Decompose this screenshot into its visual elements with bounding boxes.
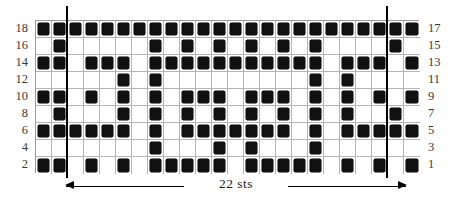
stitch-cell[interactable] <box>68 89 84 106</box>
stitch-cell[interactable] <box>308 140 324 157</box>
stitch-cell[interactable] <box>84 140 100 157</box>
stitch-cell[interactable] <box>116 89 132 106</box>
stitch-cell[interactable] <box>404 21 420 38</box>
stitch-cell[interactable] <box>132 21 148 38</box>
stitch-cell[interactable] <box>84 38 100 55</box>
stitch-cell[interactable] <box>340 89 356 106</box>
stitch-cell[interactable] <box>36 123 52 140</box>
stitch-cell[interactable] <box>388 89 404 106</box>
stitch-cell[interactable] <box>180 123 196 140</box>
stitch-cell[interactable] <box>308 21 324 38</box>
stitch-cell[interactable] <box>292 38 308 55</box>
stitch-cell[interactable] <box>388 140 404 157</box>
stitch-cell[interactable] <box>36 55 52 72</box>
stitch-cell[interactable] <box>404 106 420 123</box>
stitch-cell[interactable] <box>292 89 308 106</box>
stitch-cell[interactable] <box>36 72 52 89</box>
stitch-cell[interactable] <box>388 38 404 55</box>
stitch-cell[interactable] <box>324 72 340 89</box>
stitch-cell[interactable] <box>196 106 212 123</box>
stitch-cell[interactable] <box>260 157 276 174</box>
stitch-cell[interactable] <box>324 21 340 38</box>
stitch-cell[interactable] <box>324 89 340 106</box>
stitch-cell[interactable] <box>292 55 308 72</box>
stitch-cell[interactable] <box>132 123 148 140</box>
stitch-cell[interactable] <box>100 55 116 72</box>
stitch-cell[interactable] <box>276 72 292 89</box>
stitch-cell[interactable] <box>404 89 420 106</box>
stitch-cell[interactable] <box>244 21 260 38</box>
stitch-cell[interactable] <box>308 38 324 55</box>
stitch-cell[interactable] <box>68 123 84 140</box>
stitch-cell[interactable] <box>100 106 116 123</box>
stitch-cell[interactable] <box>100 140 116 157</box>
stitch-cell[interactable] <box>132 38 148 55</box>
stitch-cell[interactable] <box>324 38 340 55</box>
stitch-cell[interactable] <box>388 72 404 89</box>
stitch-cell[interactable] <box>100 72 116 89</box>
stitch-cell[interactable] <box>308 123 324 140</box>
stitch-cell[interactable] <box>148 55 164 72</box>
stitch-cell[interactable] <box>212 72 228 89</box>
stitch-cell[interactable] <box>292 123 308 140</box>
stitch-cell[interactable] <box>68 38 84 55</box>
stitch-cell[interactable] <box>196 157 212 174</box>
stitch-cell[interactable] <box>132 106 148 123</box>
stitch-cell[interactable] <box>100 123 116 140</box>
stitch-cell[interactable] <box>100 89 116 106</box>
stitch-cell[interactable] <box>260 21 276 38</box>
stitch-cell[interactable] <box>164 55 180 72</box>
stitch-cell[interactable] <box>292 157 308 174</box>
stitch-cell[interactable] <box>132 89 148 106</box>
stitch-cell[interactable] <box>324 123 340 140</box>
stitch-cell[interactable] <box>148 38 164 55</box>
stitch-cell[interactable] <box>212 21 228 38</box>
stitch-cell[interactable] <box>276 89 292 106</box>
stitch-cell[interactable] <box>404 55 420 72</box>
stitch-cell[interactable] <box>68 55 84 72</box>
stitch-cell[interactable] <box>68 106 84 123</box>
stitch-cell[interactable] <box>228 72 244 89</box>
stitch-cell[interactable] <box>340 38 356 55</box>
stitch-cell[interactable] <box>356 38 372 55</box>
stitch-cell[interactable] <box>292 140 308 157</box>
stitch-cell[interactable] <box>68 140 84 157</box>
stitch-cell[interactable] <box>164 21 180 38</box>
stitch-cell[interactable] <box>260 38 276 55</box>
stitch-cell[interactable] <box>260 89 276 106</box>
stitch-cell[interactable] <box>196 123 212 140</box>
stitch-cell[interactable] <box>340 55 356 72</box>
stitch-cell[interactable] <box>356 106 372 123</box>
stitch-cell[interactable] <box>276 106 292 123</box>
stitch-cell[interactable] <box>84 72 100 89</box>
stitch-cell[interactable] <box>276 123 292 140</box>
stitch-cell[interactable] <box>116 123 132 140</box>
stitch-cell[interactable] <box>244 106 260 123</box>
stitch-cell[interactable] <box>164 140 180 157</box>
stitch-cell[interactable] <box>212 106 228 123</box>
stitch-cell[interactable] <box>68 72 84 89</box>
stitch-cell[interactable] <box>388 21 404 38</box>
stitch-cell[interactable] <box>292 106 308 123</box>
stitch-cell[interactable] <box>212 157 228 174</box>
stitch-cell[interactable] <box>244 55 260 72</box>
stitch-cell[interactable] <box>260 140 276 157</box>
stitch-cell[interactable] <box>148 72 164 89</box>
stitch-cell[interactable] <box>404 157 420 174</box>
stitch-cell[interactable] <box>36 140 52 157</box>
stitch-cell[interactable] <box>84 157 100 174</box>
stitch-cell[interactable] <box>260 55 276 72</box>
stitch-cell[interactable] <box>212 55 228 72</box>
stitch-cell[interactable] <box>292 72 308 89</box>
stitch-cell[interactable] <box>196 38 212 55</box>
stitch-cell[interactable] <box>132 140 148 157</box>
stitch-cell[interactable] <box>180 140 196 157</box>
stitch-cell[interactable] <box>164 89 180 106</box>
stitch-cell[interactable] <box>148 89 164 106</box>
stitch-cell[interactable] <box>180 106 196 123</box>
stitch-cell[interactable] <box>164 38 180 55</box>
stitch-cell[interactable] <box>212 89 228 106</box>
stitch-cell[interactable] <box>356 21 372 38</box>
stitch-cell[interactable] <box>308 157 324 174</box>
stitch-cell[interactable] <box>148 21 164 38</box>
